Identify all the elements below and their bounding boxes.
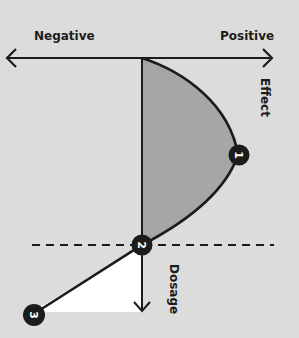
dose-response-diagram: Negative Positive Effect Dosage 1 2 3: [0, 0, 299, 338]
effect-axis-label: Effect: [258, 78, 272, 117]
marker-2: 2: [132, 235, 153, 256]
positive-effect-area: [142, 58, 238, 245]
marker-2-label: 2: [135, 241, 148, 249]
marker-3-label: 3: [27, 311, 40, 319]
marker-1: 1: [229, 145, 250, 166]
dosage-axis-label: Dosage: [167, 264, 181, 314]
marker-3: 3: [23, 304, 45, 326]
positive-label: Positive: [220, 29, 274, 43]
marker-1-label: 1: [232, 151, 245, 159]
negative-label: Negative: [34, 29, 95, 43]
